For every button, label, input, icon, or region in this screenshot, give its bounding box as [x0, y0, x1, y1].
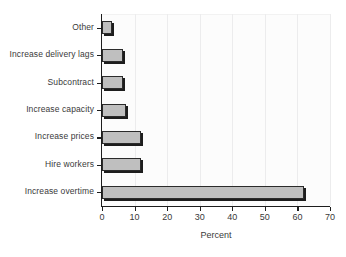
gridline — [135, 14, 136, 206]
bar — [102, 186, 304, 199]
gridline — [200, 14, 201, 206]
bar-chart: OtherIncrease delivery lagsSubcontractIn… — [0, 0, 346, 257]
x-axis-tick-label: 50 — [250, 212, 280, 222]
gridline — [167, 14, 168, 206]
category-label: Increase overtime — [0, 187, 94, 197]
category-label: Increase capacity — [0, 105, 94, 115]
x-axis-tick — [167, 207, 168, 211]
x-axis-tick — [297, 207, 298, 211]
x-axis-tick — [200, 207, 201, 211]
category-label: Increase prices — [0, 132, 94, 142]
category-label: Other — [0, 23, 94, 33]
x-axis-tick-label: 30 — [185, 212, 215, 222]
gridline — [265, 14, 266, 206]
category-label: Increase delivery lags — [0, 50, 94, 60]
x-axis-tick — [102, 207, 103, 211]
x-axis-tick-label: 20 — [152, 212, 182, 222]
y-axis-tick — [97, 110, 101, 111]
y-axis-tick — [97, 55, 101, 56]
x-axis-tick — [330, 207, 331, 211]
bar — [102, 131, 141, 144]
y-axis-line — [101, 14, 102, 207]
plot-top-edge — [102, 14, 330, 15]
y-axis-tick — [97, 28, 101, 29]
x-axis-tick-label: 70 — [315, 212, 345, 222]
x-axis-tick-label: 10 — [120, 212, 150, 222]
x-axis-tick — [265, 207, 266, 211]
y-axis-tick — [97, 165, 101, 166]
bar — [102, 104, 126, 117]
gridline — [297, 14, 298, 206]
category-label: Hire workers — [0, 160, 94, 170]
bar — [102, 158, 141, 171]
x-axis-tick — [232, 207, 233, 211]
category-label: Subcontract — [0, 78, 94, 88]
gridline — [232, 14, 233, 206]
gridline — [330, 14, 331, 206]
y-axis-tick — [97, 137, 101, 138]
plot-area — [102, 14, 330, 206]
category-axis-labels: OtherIncrease delivery lagsSubcontractIn… — [0, 14, 98, 206]
x-axis-title: Percent — [102, 230, 330, 240]
bar — [102, 49, 123, 62]
x-axis-tick — [135, 207, 136, 211]
x-axis-tick-label: 60 — [282, 212, 312, 222]
y-axis-tick — [97, 83, 101, 84]
y-axis-tick — [97, 192, 101, 193]
x-axis-tick-label: 40 — [217, 212, 247, 222]
bar — [102, 21, 112, 34]
bar — [102, 76, 123, 89]
x-axis-tick-label: 0 — [87, 212, 117, 222]
